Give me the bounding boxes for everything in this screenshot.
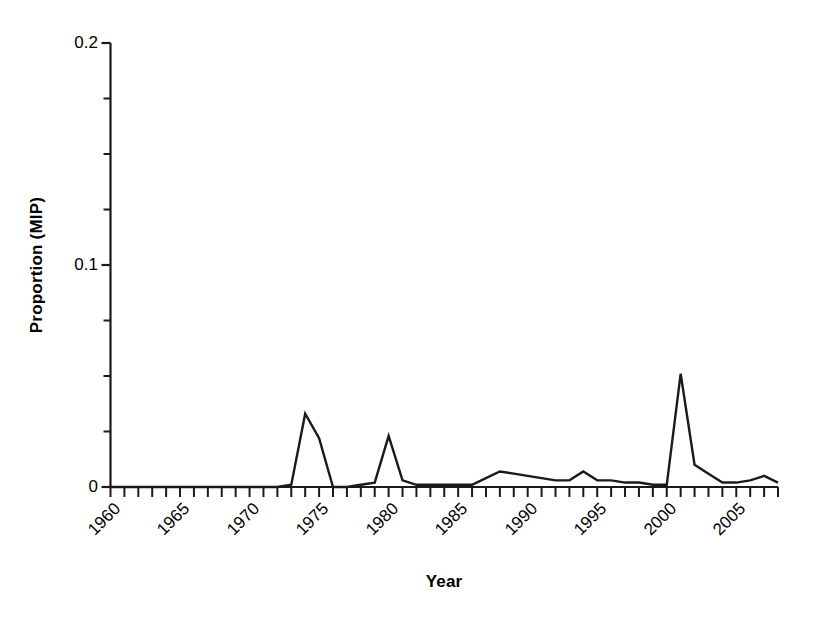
data-series-line <box>111 374 779 487</box>
y-axis-ticks <box>102 43 111 487</box>
chart-figure: Proportion (MIP) 00.10.2 196019651970197… <box>0 0 821 620</box>
x-axis-ticks <box>111 487 779 497</box>
axes-lines <box>111 43 779 487</box>
plot-canvas <box>0 0 821 620</box>
